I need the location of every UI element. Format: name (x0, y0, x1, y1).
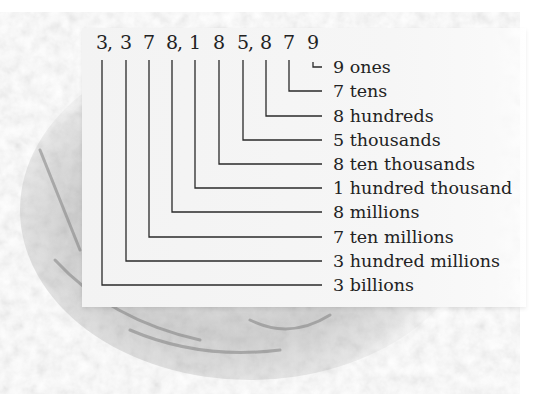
place-label: 5 thousands (333, 129, 441, 151)
place-label: 9 ones (333, 56, 391, 78)
place-label: 3 billions (333, 274, 414, 296)
comma-separator: , (248, 30, 254, 54)
digit-tens: 7 (283, 30, 295, 54)
connector-line (313, 62, 322, 67)
digit-hundreds: 8 (260, 30, 272, 54)
connector-line (126, 60, 322, 261)
place-label: 7 ten millions (333, 226, 454, 248)
place-label: 8 millions (333, 201, 419, 223)
digit-hundred-thousand: 1 (189, 30, 201, 54)
place-label: 7 tens (333, 80, 387, 102)
digit-hundred-millions: 3 (120, 30, 132, 54)
digit-ones: 9 (307, 30, 319, 54)
connector-line (289, 60, 322, 91)
connector-line (102, 60, 322, 285)
connector-line (149, 60, 322, 237)
place-label: 8 hundreds (333, 105, 434, 127)
connector-line (243, 60, 322, 140)
comma-separator: , (107, 30, 113, 54)
digit-ten-thousands: 8 (213, 30, 225, 54)
place-label: 8 ten thousands (333, 153, 475, 175)
number-digits: 3,378,185,879 (0, 30, 542, 56)
connector-line (195, 60, 322, 188)
place-label: 1 hundred thousand (333, 177, 512, 199)
connector-line (266, 60, 322, 116)
place-label: 3 hundred millions (333, 250, 500, 272)
comma-separator: , (177, 30, 183, 54)
digit-ten-millions: 7 (143, 30, 155, 54)
connector-line (219, 60, 322, 164)
